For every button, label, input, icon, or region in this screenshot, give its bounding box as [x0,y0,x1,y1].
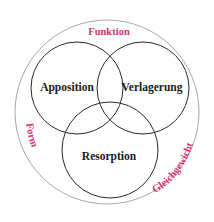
label-resorption: Resorption [82,150,137,163]
label-apposition: Apposition [40,81,94,94]
label-form: Form [24,122,40,148]
label-funktion: Funktion [88,26,130,37]
label-verlagerung: Verlagerung [122,81,183,94]
label-gleichgewicht: Gleichgewicht [150,141,195,195]
venn-diagram: Funktion Form Gleichgewicht Apposition V… [0,0,214,222]
